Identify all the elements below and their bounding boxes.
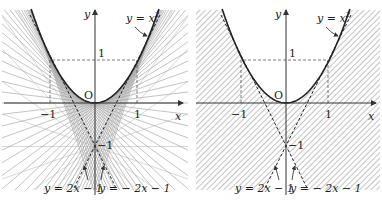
tangent-right-pointer — [292, 166, 295, 180]
curve-label-pointer — [135, 27, 147, 36]
figure-canvas: y x O −1 1 1 −1 y = x2 y = 2x − 1 y = − … — [0, 0, 382, 203]
tick-x-neg: −1 — [231, 108, 247, 121]
tangent-left-pointer — [275, 166, 279, 180]
right-panel: y x O −1 1 1 −1 y = x2 y = 2x − 1 y = − … — [196, 8, 380, 195]
curve-label: y = x2 — [125, 11, 160, 25]
origin-label: O — [274, 89, 283, 102]
left-panel: y x O −1 1 1 −1 y = x2 y = 2x − 1 y = − … — [0, 0, 191, 203]
y-axis-label: y — [274, 8, 282, 21]
x-axis-label: x — [368, 110, 375, 123]
tick-x-pos: 1 — [325, 108, 332, 121]
x-axis-label: x — [175, 110, 182, 123]
tick-x-pos: 1 — [134, 108, 141, 121]
tick-y-neg: −1 — [288, 139, 304, 152]
origin-label: O — [84, 89, 93, 102]
tick-y-pos: 1 — [98, 47, 105, 60]
tangent-left-label: y = 2x − 1 — [43, 182, 103, 195]
tick-y-pos: 1 — [289, 47, 296, 60]
tick-x-neg: −1 — [40, 108, 56, 121]
tangent-left-label: y = 2x − 1 — [234, 182, 294, 195]
curve-label: y = x2 — [316, 11, 351, 25]
tangent-right-label: y = − 2x − 1 — [98, 182, 171, 195]
curve-label-pointer — [326, 27, 338, 36]
tick-y-neg: −1 — [97, 139, 113, 152]
y-axis-label: y — [83, 8, 91, 21]
tangent-right-label: y = − 2x − 1 — [289, 182, 362, 195]
